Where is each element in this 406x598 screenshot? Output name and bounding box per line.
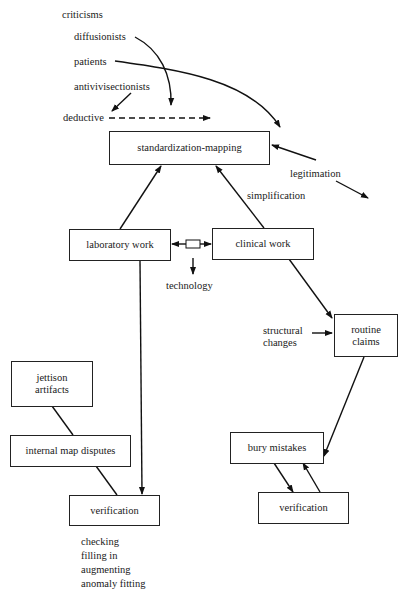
label-deductive: deductive	[63, 111, 104, 124]
node-label: verification	[279, 502, 327, 514]
node-label: bury mistakes	[248, 442, 307, 454]
node-verification-right: verification	[258, 492, 349, 524]
activity-item: filling in	[81, 549, 145, 563]
verification-activities-list: checking filling in augmenting anomaly f…	[81, 535, 145, 591]
label-changes: changes	[263, 336, 297, 349]
edge-bury-to-verification	[274, 463, 293, 492]
node-internal-map-disputes: internal map disputes	[10, 435, 131, 467]
node-clinical-work: clinical work	[212, 228, 314, 260]
node-verification-left: verification	[69, 495, 160, 526]
activity-item: anomaly fitting	[81, 577, 145, 591]
node-label: standardization-mapping	[137, 142, 241, 154]
node-label: laboratory work	[86, 239, 153, 251]
label-criticisms: criticisms	[62, 8, 103, 21]
node-bury-mistakes: bury mistakes	[230, 432, 324, 464]
node-label: claims	[352, 336, 379, 348]
node-label: jettison	[37, 372, 68, 384]
node-laboratory-work: laboratory work	[69, 229, 171, 261]
label-diffusionists: diffusionists	[74, 30, 126, 43]
label-technology: technology	[166, 279, 213, 292]
node-label: verification	[90, 505, 138, 517]
edge-lab-to-verification	[140, 261, 142, 494]
label-simplification: simplification	[247, 189, 305, 202]
node-jettison-artifacts: jettison artifacts	[11, 361, 93, 407]
edge-lab-to-standardization	[120, 166, 161, 229]
edge-legitimation-in	[272, 145, 316, 160]
node-label: artifacts	[35, 384, 69, 396]
technology-connector	[186, 240, 200, 248]
edge-internal-verification	[96, 466, 117, 495]
node-label: internal map disputes	[26, 445, 116, 457]
edge-routine-to-bury	[324, 357, 364, 456]
label-patients: patients	[74, 55, 107, 68]
edge-clinical-to-routine	[289, 259, 332, 318]
edge-jettison-internal	[52, 406, 73, 435]
node-standardization-mapping: standardization-mapping	[109, 131, 270, 165]
label-legitimation: legitimation	[290, 167, 341, 180]
edge-diffusionists	[135, 37, 171, 105]
activity-item: checking	[81, 535, 145, 549]
edge-patients	[115, 61, 280, 127]
node-label: routine	[351, 324, 381, 336]
node-label: clinical work	[235, 238, 290, 250]
edge-antivivisectionists	[112, 93, 131, 111]
activity-item: augmenting	[81, 563, 145, 577]
node-routine-claims: routine claims	[334, 314, 398, 357]
edge-legitimation-out	[336, 181, 368, 198]
label-antivivisectionists: antivivisectionists	[74, 80, 150, 93]
edge-verification-to-bury	[303, 463, 320, 492]
